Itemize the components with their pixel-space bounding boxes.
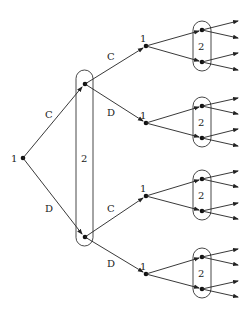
terminal-edge (202, 281, 238, 289)
subtree-DC: 1 2 (140, 170, 238, 220)
subtree-CC: 1 2 (140, 21, 238, 71)
terminal-edge (202, 30, 238, 38)
terminal-edge (202, 257, 238, 265)
label-upper-D: D (107, 107, 115, 118)
edge (146, 274, 199, 288)
edge (146, 123, 199, 137)
edge (146, 46, 199, 61)
player2-infoset-label: 2 (198, 41, 204, 52)
root-player-label: 1 (11, 153, 17, 164)
terminal-edge (202, 106, 238, 114)
label-lower-D: D (107, 258, 115, 269)
player2-infoset-label: 2 (198, 268, 204, 279)
subtree-CD: 1 2 (140, 97, 238, 147)
terminal-edge (202, 179, 238, 187)
edge (146, 196, 199, 210)
terminal-edge (202, 53, 238, 62)
label-lower-C: C (107, 203, 115, 214)
player1-label: 1 (140, 33, 146, 44)
player2-infoset-label: 2 (198, 117, 204, 128)
edge (146, 107, 199, 123)
player1-label: 1 (140, 183, 146, 194)
player1-label: 1 (140, 261, 146, 272)
terminal-edge (202, 203, 238, 211)
label-upper-C: C (107, 51, 115, 62)
game-tree: 1 C D 2 C D C D 1 2 1 2 (0, 0, 246, 318)
player1-label: 1 (140, 110, 146, 121)
subtree-DD: 1 2 (140, 248, 238, 298)
label-root-D: D (45, 203, 53, 214)
edge-root-D (23, 158, 82, 234)
edge (146, 258, 199, 274)
label-root-C: C (45, 109, 53, 120)
terminal-edge (202, 129, 238, 138)
edge (146, 31, 199, 46)
edge (146, 180, 199, 196)
edge-root-C (23, 87, 82, 158)
player2-infoset-label: 2 (198, 190, 204, 201)
player2-infoset-label: 2 (81, 153, 87, 164)
